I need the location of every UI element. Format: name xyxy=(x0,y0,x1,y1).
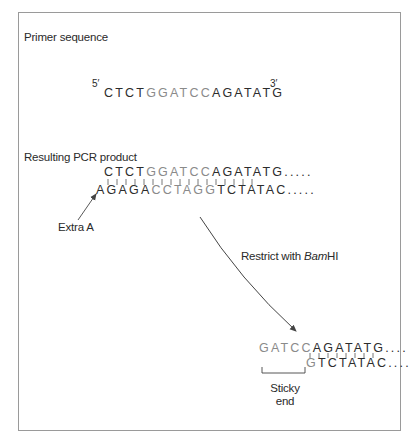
sticky-end-bracket xyxy=(262,367,305,373)
digest-bond-ticks xyxy=(310,353,373,358)
extra-a-arrow xyxy=(78,194,96,220)
pcr-bond-ticks xyxy=(108,179,252,185)
diagram-lines xyxy=(0,0,414,448)
restriction-arrow xyxy=(200,217,296,331)
